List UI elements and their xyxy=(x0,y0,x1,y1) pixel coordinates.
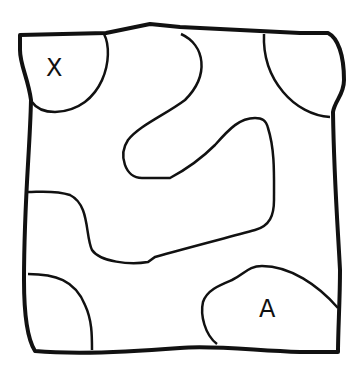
region-top-left xyxy=(32,34,108,112)
region-top-right xyxy=(264,34,330,117)
corridor-boundary xyxy=(28,34,274,263)
outer-border xyxy=(20,24,344,353)
region-bottom-left xyxy=(28,274,92,350)
label-a: A xyxy=(259,295,276,323)
label-x: X xyxy=(46,54,62,82)
maze-diagram: X A xyxy=(0,0,362,375)
